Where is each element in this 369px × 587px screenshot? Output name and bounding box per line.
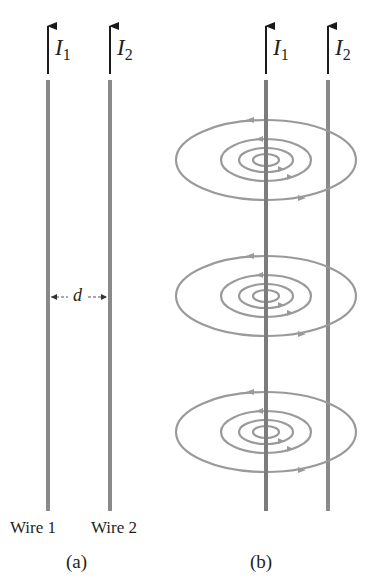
panel-b [176, 26, 356, 511]
field-arrow-icon [256, 272, 263, 278]
wire2-current-label: I2 [117, 36, 133, 63]
separation-label: d [72, 286, 83, 304]
wire-2 [108, 80, 112, 511]
b-wire-1 [264, 80, 268, 511]
wire1-current-label: I1 [55, 36, 71, 63]
field-arrow-icon [246, 253, 254, 259]
panel-a-label: (a) [66, 552, 87, 571]
field-arrow-icon [256, 136, 263, 142]
b-wire-2 [326, 80, 330, 511]
wire-1 [46, 80, 50, 511]
field-arrow-icon [246, 117, 254, 123]
field-arrow-icon [287, 446, 294, 452]
field-arrow-icon [287, 310, 294, 316]
wire2-name-label: Wire 2 [91, 519, 137, 536]
diagram-canvas [0, 0, 369, 587]
panel-b-label: (b) [250, 552, 272, 571]
field-arrow-icon [256, 408, 263, 414]
panel-a [46, 26, 112, 511]
field-arrow-icon [287, 174, 294, 180]
left-arrowhead-icon [51, 294, 57, 300]
b-wire1-current-label: I1 [273, 36, 289, 63]
right-arrowhead-icon [101, 294, 107, 300]
b-wire2-current-label: I2 [335, 36, 351, 63]
field-arrow-icon [246, 389, 254, 395]
wire1-name-label: Wire 1 [10, 519, 56, 536]
